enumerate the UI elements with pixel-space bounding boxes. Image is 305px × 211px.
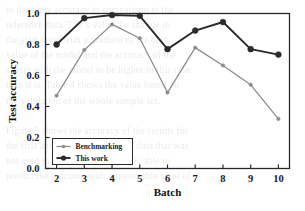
figure-container: to the same accuracy in comparison to th… [0, 0, 305, 211]
data-point-benchmarking [110, 23, 113, 26]
y-tick-label: 1.0 [26, 8, 39, 19]
data-point-this-work [109, 12, 115, 18]
data-point-benchmarking [55, 94, 58, 97]
data-point-benchmarking [166, 91, 169, 94]
y-tick-label: 0.8 [26, 39, 39, 50]
y-axis-title: Test accuracy [6, 58, 18, 123]
y-tick-label: 0.0 [26, 163, 39, 174]
data-point-this-work [81, 15, 87, 21]
test-accuracy-line-chart: 0.00.20.40.60.81.02345678910BatchTest ac… [0, 0, 305, 211]
legend-marker-benchmarking [62, 145, 65, 148]
x-tick-label: 6 [165, 173, 170, 184]
x-tick-label: 7 [193, 173, 198, 184]
data-point-benchmarking [249, 83, 252, 86]
data-point-this-work [276, 52, 282, 58]
y-tick-label: 0.2 [26, 132, 39, 143]
x-tick-label: 10 [273, 173, 284, 184]
series-line-benchmarking [57, 24, 279, 119]
x-tick-label: 8 [220, 173, 225, 184]
legend-label-benchmarking: Benchmarking [76, 142, 123, 151]
y-tick-label: 0.6 [26, 70, 39, 81]
data-point-this-work [137, 13, 143, 19]
y-tick-label: 0.4 [26, 101, 40, 112]
data-point-benchmarking [138, 37, 141, 40]
x-tick-label: 5 [137, 173, 142, 184]
x-tick-label: 2 [54, 173, 59, 184]
data-point-benchmarking [221, 64, 224, 67]
data-point-this-work [220, 19, 226, 25]
legend-marker-this-work [61, 155, 66, 160]
data-point-this-work [248, 46, 254, 52]
x-tick-label: 9 [248, 173, 253, 184]
data-point-this-work [165, 46, 171, 52]
x-tick-label: 3 [82, 173, 87, 184]
data-point-this-work [54, 42, 60, 48]
x-axis-title: Batch [154, 186, 182, 198]
data-point-this-work [192, 28, 198, 34]
x-tick-label: 4 [109, 173, 115, 184]
data-point-benchmarking [277, 117, 280, 120]
legend-label-this-work: This work [76, 154, 109, 163]
data-point-benchmarking [194, 46, 197, 49]
data-point-benchmarking [83, 48, 86, 51]
